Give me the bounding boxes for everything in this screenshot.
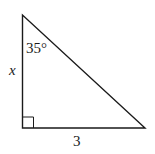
triangle-diagram: 35° x 3 <box>0 0 155 154</box>
right-angle-marker <box>23 117 34 128</box>
angle-label: 35° <box>26 40 47 56</box>
triangle-shape <box>23 15 146 128</box>
side-base-label: 3 <box>73 133 81 149</box>
side-x-label: x <box>8 62 16 78</box>
